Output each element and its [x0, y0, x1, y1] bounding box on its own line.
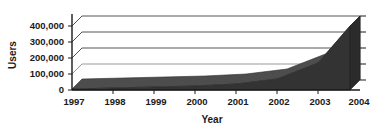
depth-connector-100000 — [72, 64, 82, 74]
x-tick-label-1998: 1998 — [104, 96, 125, 107]
chart-container: 400,000 300,000 200,000 100,000 0 1997 1… — [0, 0, 386, 127]
y-tick-label-200000: 200,000 — [30, 52, 64, 63]
x-tick-label-2001: 2001 — [227, 96, 249, 107]
depth-connector-200000 — [72, 48, 82, 58]
y-axis-title: Users — [7, 41, 18, 69]
y-tick-label-300000: 300,000 — [30, 36, 64, 47]
x-tick-label-1999: 1999 — [145, 96, 166, 107]
y-tick-label-100000: 100,000 — [30, 68, 64, 79]
x-axis-title: Year — [201, 114, 222, 125]
x-tick-label-2003: 2003 — [309, 96, 330, 107]
x-tick-label-1997: 1997 — [63, 96, 84, 107]
x-tick-label-2002: 2002 — [268, 96, 289, 107]
depth-connector-300000 — [72, 32, 82, 42]
x-tick-label-2000: 2000 — [186, 96, 207, 107]
depth-connectors-group — [72, 16, 82, 90]
y-tick-label-0: 0 — [59, 84, 64, 95]
y-tick-label-400000: 400,000 — [30, 20, 64, 31]
right-axis-ticks — [360, 16, 366, 80]
x-tick-label-2004: 2004 — [348, 96, 370, 107]
area-side-face — [350, 16, 360, 90]
depth-connector-400000 — [72, 16, 82, 26]
area-chart-3d: 400,000 300,000 200,000 100,000 0 1997 1… — [0, 0, 386, 127]
